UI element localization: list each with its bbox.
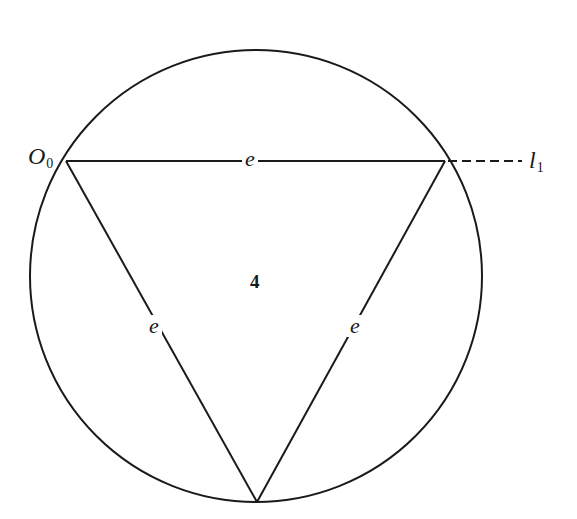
diagram-svg	[0, 0, 577, 519]
edge-top-label: e	[242, 148, 258, 170]
line-l1-main: l	[529, 147, 536, 173]
origin-point-label: O0	[28, 144, 53, 171]
origin-point-subscript: 0	[46, 156, 53, 171]
edge-left-label: e	[146, 315, 162, 337]
line-l1-subscript: 1	[537, 160, 544, 175]
diagram-canvas: O0 l1 e e e 4	[0, 0, 577, 519]
line-l1-label: l1	[529, 148, 544, 175]
edge-right-label: e	[347, 315, 363, 337]
origin-point-main: O	[28, 143, 45, 169]
face-number-label: 4	[250, 272, 260, 291]
